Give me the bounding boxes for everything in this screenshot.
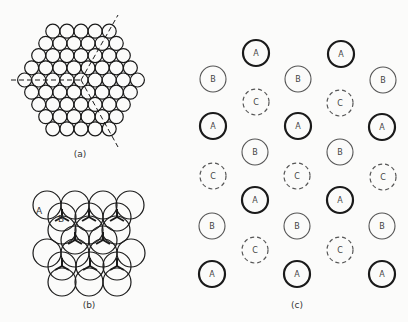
site-label: C (253, 98, 259, 107)
sphere (109, 36, 123, 50)
figure-stage: AB AABBBCCAAABBCCCAABBBCCAAA (a) (b) (c) (0, 0, 408, 322)
sphere (67, 61, 81, 75)
sphere (60, 122, 74, 136)
sphere (95, 61, 109, 75)
site-label: C (337, 246, 343, 255)
sphere (67, 110, 81, 124)
sphere (102, 122, 116, 136)
sphere (81, 110, 95, 124)
site-label: A (295, 122, 301, 131)
sphere (39, 85, 53, 99)
site-label: B (294, 222, 300, 231)
site-label: A (210, 122, 216, 131)
site-label: B (252, 148, 258, 157)
site-label: C (294, 172, 300, 181)
site-label: B (337, 148, 343, 157)
site-label: B (209, 222, 215, 231)
sphere (116, 49, 130, 63)
sphere (60, 24, 74, 38)
panel-a-label: (a) (74, 149, 87, 159)
site-label: B (379, 222, 385, 231)
site-label: A (379, 123, 385, 132)
sphere (81, 36, 95, 50)
panel-c-abc-positions: AABBBCCAAABBCCCAABBBCCAAA (199, 40, 396, 287)
sphere (109, 110, 123, 124)
sphere (102, 49, 116, 63)
sphere (46, 97, 60, 111)
sphere (95, 110, 109, 124)
contact-mark (110, 217, 117, 221)
sphere (53, 110, 67, 124)
sphere (46, 122, 60, 136)
sphere (67, 36, 81, 50)
site-label: C (252, 246, 258, 255)
sphere (39, 110, 53, 124)
site-label: A (252, 196, 258, 205)
site-label: A (337, 196, 343, 205)
layer-a-sphere (75, 268, 103, 296)
site-label: C (210, 172, 216, 181)
sphere (81, 61, 95, 75)
site-label: A (253, 49, 259, 58)
site-label: B (210, 75, 216, 84)
layer-a-sphere (48, 268, 76, 296)
sphere (60, 49, 74, 63)
sphere (74, 97, 88, 111)
sphere (53, 36, 67, 50)
sphere (32, 49, 46, 63)
sphere (39, 36, 53, 50)
sphere (123, 85, 137, 99)
sphere (46, 24, 60, 38)
sphere (74, 49, 88, 63)
sphere (81, 85, 95, 99)
panel-c-label: (c) (291, 300, 303, 310)
sphere (109, 61, 123, 75)
sphere (102, 73, 116, 87)
site-label: B (380, 76, 386, 85)
sphere (60, 97, 74, 111)
sphere (123, 61, 137, 75)
layer-a-label: A (36, 206, 43, 216)
panel-b-label: (b) (83, 300, 96, 310)
sphere (39, 61, 53, 75)
layer-a-sphere (116, 191, 144, 219)
layer-a-sphere (103, 268, 131, 296)
symmetry-line (81, 80, 118, 147)
sphere (95, 85, 109, 99)
site-label: A (338, 50, 344, 59)
sphere (130, 73, 144, 87)
sphere (88, 73, 102, 87)
sphere (74, 24, 88, 38)
site-label: A (294, 270, 300, 279)
sphere (46, 49, 60, 63)
sphere (116, 97, 130, 111)
site-label: C (337, 99, 343, 108)
layer-b-label: B (58, 214, 64, 224)
site-label: A (379, 270, 385, 279)
sphere (53, 85, 67, 99)
sphere (32, 97, 46, 111)
sphere (53, 61, 67, 75)
sphere (102, 97, 116, 111)
sphere (88, 97, 102, 111)
panel-a-hexagonal-layer (11, 15, 144, 147)
close-packing-figure: AB AABBBCCAAABBCCCAABBBCCAAA (a) (b) (c) (0, 0, 408, 322)
sphere (88, 122, 102, 136)
sphere (25, 61, 39, 75)
site-label: A (209, 270, 215, 279)
sphere (67, 85, 81, 99)
sphere (25, 85, 39, 99)
sphere (74, 122, 88, 136)
sphere (109, 85, 123, 99)
site-label: C (380, 173, 386, 182)
sphere (116, 73, 130, 87)
panel-b-stacked-layers: AB (33, 191, 145, 296)
sphere (88, 24, 102, 38)
site-label: B (295, 75, 301, 84)
